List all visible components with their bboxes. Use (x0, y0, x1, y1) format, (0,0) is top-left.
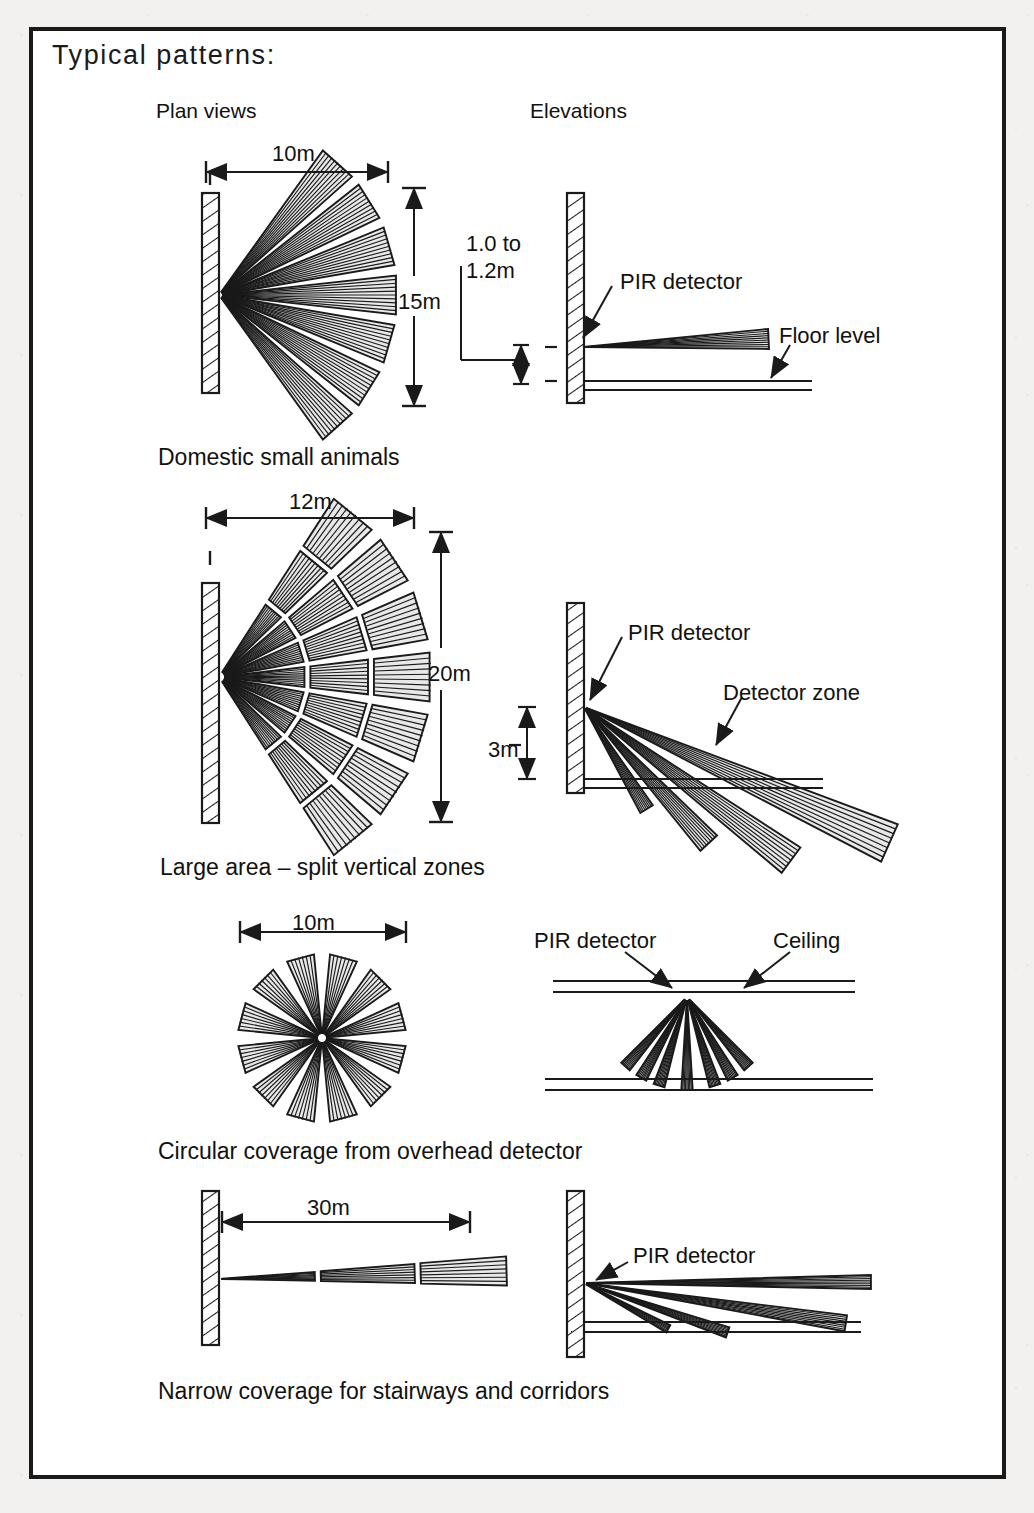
section-caption-circular: Circular coverage from overhead detector (158, 1138, 582, 1165)
column-header-plan-views: Plan views (156, 99, 256, 123)
section-caption-large-area: Large area – split vertical zones (160, 854, 485, 881)
pir-detector-label: PIR detector (534, 928, 656, 954)
plan-depth-dimension-label: 20m (428, 661, 471, 687)
pir-detector-label: PIR detector (628, 620, 750, 646)
plan-width-dimension-label: 30m (307, 1195, 350, 1221)
pir-detector-label: PIR detector (620, 269, 742, 295)
pir-detector-label: PIR detector (633, 1243, 755, 1269)
ceiling-label: Ceiling (773, 928, 840, 954)
section-caption-narrow: Narrow coverage for stairways and corrid… (158, 1378, 609, 1405)
diagram-heading: Typical patterns: (52, 40, 276, 71)
plan-width-dimension-label: 10m (292, 910, 335, 936)
plan-width-dimension-label: 12m (289, 489, 332, 515)
floor-level-label: Floor level (779, 323, 880, 349)
elevation-height-dimension-label-line2: 1.2m (466, 258, 515, 284)
detector-zone-label: Detector zone (723, 680, 860, 706)
plan-width-dimension-label: 10m (272, 141, 315, 167)
plan-depth-dimension-label: 15m (398, 289, 441, 315)
section-caption-domestic: Domestic small animals (158, 444, 400, 471)
elevation-height-dimension-label-line1: 1.0 to (466, 231, 521, 257)
elevation-height-dimension-label: 3m (488, 737, 519, 763)
column-header-elevations: Elevations (530, 99, 627, 123)
